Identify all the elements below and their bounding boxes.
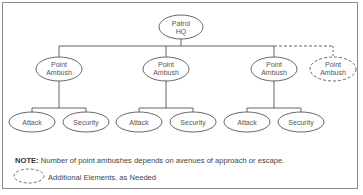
branch-label-line2: Ambush bbox=[261, 69, 287, 76]
leaf-node-attack-2: Attack bbox=[116, 112, 162, 132]
branch-label-line2: Ambush bbox=[153, 69, 179, 76]
leaf-node-security-2: Security bbox=[170, 112, 216, 132]
branch-label-line1: Point bbox=[51, 61, 67, 68]
leaf-label: Security bbox=[180, 119, 206, 127]
branch-node-point-ambush-optional: Point Ambush bbox=[310, 57, 356, 81]
leaf-label: Security bbox=[288, 119, 314, 127]
leaf-node-security-3: Security bbox=[278, 112, 324, 132]
root-label-line2: HQ bbox=[176, 28, 187, 36]
branch-label-line1: Point bbox=[325, 61, 341, 68]
branch-label-line1: Point bbox=[158, 61, 174, 68]
branch-node-point-ambush-3: Point Ambush bbox=[251, 57, 297, 81]
branch-label-line2: Ambush bbox=[46, 69, 72, 76]
leaf-label: Attack bbox=[237, 119, 257, 126]
leaf-node-security-1: Security bbox=[63, 112, 109, 132]
root-label-line1: Patrol bbox=[172, 20, 191, 27]
branch-label-line1: Point bbox=[266, 61, 282, 68]
leaf-node-attack-3: Attack bbox=[224, 112, 270, 132]
footnote: NOTE: Number of point ambushes depends o… bbox=[15, 156, 284, 165]
leaf-label: Security bbox=[73, 119, 99, 127]
branch-node-point-ambush-2: Point Ambush bbox=[143, 57, 189, 81]
legend-dashed-ellipse-icon bbox=[14, 169, 44, 183]
root-node-patrol-hq: Patrol HQ bbox=[159, 15, 203, 39]
leaf-label: Attack bbox=[129, 119, 149, 126]
note-text: Number of point ambushes depends on aven… bbox=[39, 156, 285, 165]
leaf-label: Attack bbox=[22, 119, 42, 126]
org-chart: Patrol HQ Point Ambush Point Ambush Poin… bbox=[0, 0, 363, 195]
leaf-node-attack-1: Attack bbox=[9, 112, 55, 132]
legend-label: Additional Elements, as Needed bbox=[48, 173, 156, 182]
branch-node-point-ambush-1: Point Ambush bbox=[36, 57, 82, 81]
branch-label-line2: Ambush bbox=[320, 69, 346, 76]
note-prefix: NOTE: bbox=[15, 156, 39, 165]
